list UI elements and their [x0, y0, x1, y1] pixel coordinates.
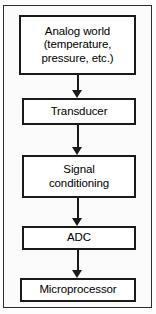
block-transducer-line-1: Transducer [51, 105, 108, 119]
block-transducer[interactable]: Transducer [22, 98, 136, 125]
arrow-shaft [77, 198, 79, 218]
arrow-conditioning-to-adc-icon [71, 198, 84, 226]
block-microprocessor-line-1: Microprocessor [39, 283, 116, 297]
arrow-head [72, 218, 82, 226]
page: Analog world (temperature, pressure, etc… [0, 0, 156, 314]
block-adc-line-1: ADC [67, 231, 91, 245]
block-analog-world[interactable]: Analog world (temperature, pressure, etc… [19, 15, 136, 75]
arrow-head [72, 90, 82, 98]
arrow-analog-to-transducer-icon [71, 75, 84, 98]
block-signal-conditioning[interactable]: Signal conditioning [22, 155, 136, 198]
arrow-shaft [77, 250, 79, 270]
arrow-adc-to-microprocessor-icon [71, 250, 84, 278]
arrow-transducer-to-conditioning-icon [71, 125, 84, 155]
block-signal-conditioning-line-2: conditioning [49, 177, 109, 191]
block-analog-world-line-3: pressure, etc.) [42, 52, 114, 66]
block-signal-conditioning-line-1: Signal [63, 163, 94, 177]
block-analog-world-line-2: (temperature, [44, 38, 112, 52]
block-adc[interactable]: ADC [22, 226, 136, 250]
arrow-head [72, 270, 82, 278]
arrow-shaft [77, 125, 79, 147]
arrow-head [72, 147, 82, 155]
block-diagram: Analog world (temperature, pressure, etc… [0, 0, 156, 314]
block-microprocessor[interactable]: Microprocessor [20, 278, 136, 302]
block-analog-world-line-1: Analog world [45, 25, 110, 39]
arrow-shaft [77, 75, 79, 90]
